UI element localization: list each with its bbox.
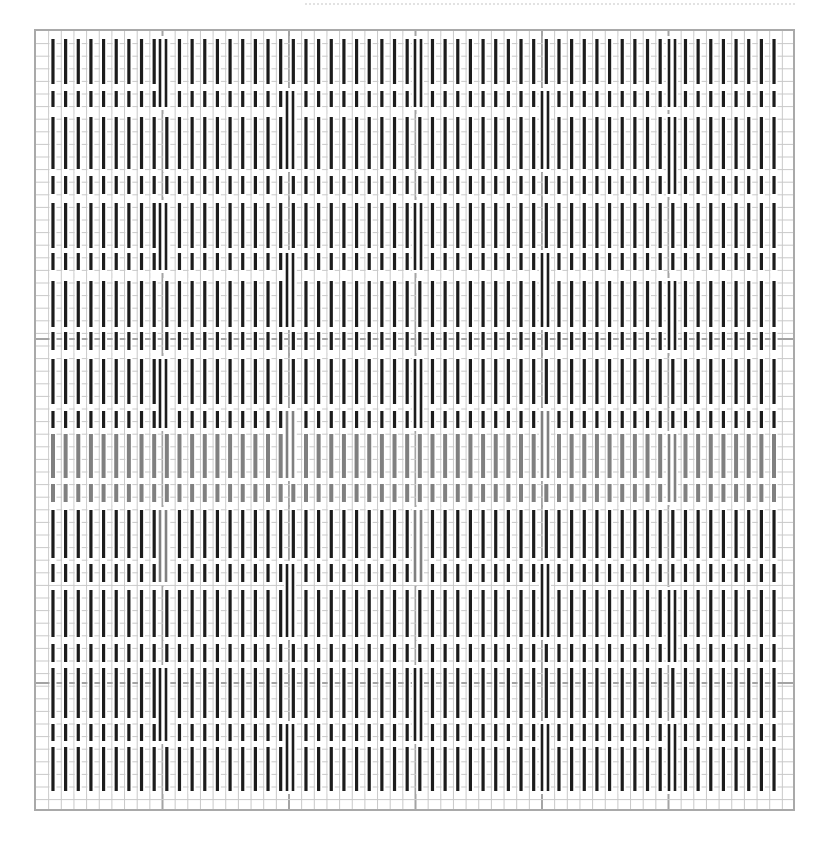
stitch-grid-canvas bbox=[36, 31, 793, 809]
top-dotted-rule bbox=[305, 3, 795, 5]
stitch-pattern-chart bbox=[34, 29, 795, 811]
